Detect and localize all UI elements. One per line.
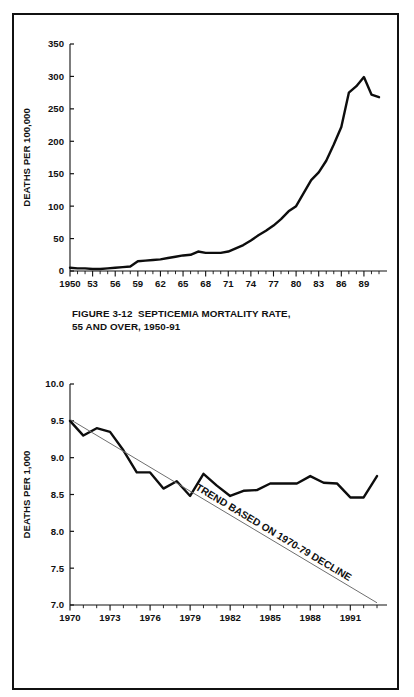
y-tick-label: 9.5: [51, 415, 65, 426]
x-tick-label: 89: [359, 278, 370, 289]
x-tick-label: 53: [87, 278, 98, 289]
x-tick-label: 1988: [300, 612, 322, 623]
x-tick-label: 59: [132, 278, 143, 289]
y-tick-label: 8.0: [51, 526, 64, 537]
figure-frame-border: 0501001502002503003501950535659626568717…: [12, 13, 399, 690]
figure-3-12-container: 0501001502002503003501950535659626568717…: [14, 15, 397, 305]
x-tick-label: 83: [313, 278, 324, 289]
y-tick-label: 100: [48, 201, 64, 212]
x-tick-label: 68: [200, 278, 211, 289]
figure-3-12-chart: 0501001502002503003501950535659626568717…: [14, 15, 397, 305]
x-tick-label: 65: [178, 278, 189, 289]
trend-annotation-group: TREND BASED ON 1970-79 DECLINE: [194, 482, 354, 584]
x-tick-label: 1979: [179, 612, 200, 623]
x-tick-label: 86: [336, 278, 347, 289]
x-tick-label: 1985: [260, 612, 282, 623]
y-tick-label: 7.5: [51, 563, 65, 574]
trend-annotation-label: TREND BASED ON 1970-79 DECLINE: [194, 482, 354, 584]
x-tick-label: 1950: [59, 278, 80, 289]
y-axis-title: DEATHS PER 1,000: [21, 451, 32, 539]
data-line-path: [70, 77, 379, 269]
y-tick-label: 8.5: [51, 489, 65, 500]
y-tick-label: 9.0: [51, 452, 64, 463]
y-tick-label: 200: [48, 136, 64, 147]
figure-3-12-caption: FIGURE 3-12 SEPTICEMIA MORTALITY RATE, 5…: [72, 308, 291, 333]
caption-line-2: 55 AND OVER, 1950-91: [72, 321, 180, 332]
y-tick-label: 250: [48, 103, 64, 114]
x-tick-label: 1970: [59, 612, 80, 623]
figure-3-13-chart: 7.07.58.08.59.09.510.0197019731976197919…: [14, 355, 397, 645]
y-tick-label: 350: [48, 38, 64, 49]
y-axis-title: DEATHS PER 100,000: [21, 108, 32, 206]
caption-line-1: FIGURE 3-12 SEPTICEMIA MORTALITY RATE,: [72, 308, 291, 319]
y-tick-label: 300: [48, 71, 64, 82]
y-tick-label: 0: [59, 265, 64, 276]
x-tick-label: 1976: [139, 612, 160, 623]
y-tick-label: 7.0: [51, 599, 64, 610]
x-tick-label: 1973: [99, 612, 120, 623]
data-line-path: [70, 421, 377, 498]
x-tick-label: 1982: [220, 612, 241, 623]
x-tick-label: 74: [246, 278, 257, 289]
y-tick-label: 10.0: [45, 378, 64, 389]
y-tick-label: 150: [48, 168, 64, 179]
trend-line-path: [70, 419, 377, 602]
x-tick-label: 56: [110, 278, 121, 289]
x-tick-label: 71: [223, 278, 234, 289]
x-tick-label: 1991: [340, 612, 362, 623]
x-tick-label: 80: [291, 278, 302, 289]
x-tick-label: 62: [155, 278, 166, 289]
figure-3-13-container: 7.07.58.08.59.09.510.0197019731976197919…: [14, 355, 397, 645]
page-root: 0501001502002503003501950535659626568717…: [0, 0, 414, 697]
y-tick-label: 50: [53, 233, 64, 244]
x-tick-label: 77: [268, 278, 279, 289]
